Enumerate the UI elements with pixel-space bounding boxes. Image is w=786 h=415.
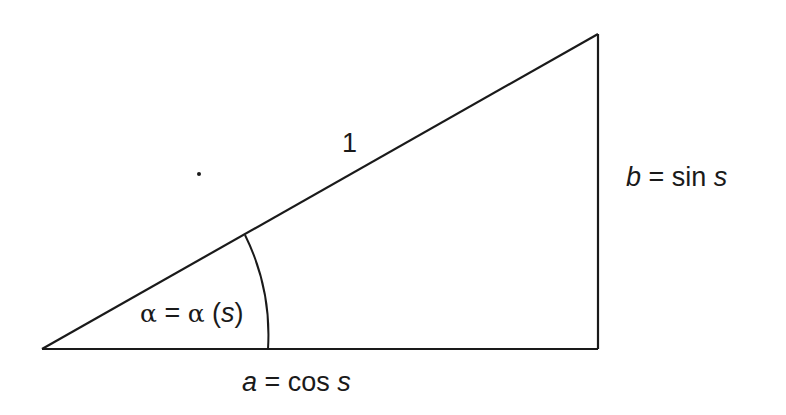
var-a: a: [242, 367, 257, 397]
vertical-side-label: b = sin s: [626, 164, 727, 191]
hypotenuse-label: 1: [342, 130, 357, 157]
triangle-figure: [0, 0, 786, 415]
sin-text: = sin: [641, 162, 714, 192]
close-paren: ): [235, 298, 244, 328]
equals-text: =: [157, 298, 188, 328]
angle-label: α = α (s): [140, 300, 244, 327]
alpha-symbol: α: [188, 299, 205, 328]
var-b: b: [626, 162, 641, 192]
alpha-symbol: α: [140, 299, 157, 328]
dot-marker: [197, 172, 201, 176]
cos-text: = cos: [257, 367, 337, 397]
open-paren: (: [205, 298, 222, 328]
arg-s: s: [714, 162, 728, 192]
arg-s: s: [221, 298, 235, 328]
angle-arc: [245, 235, 268, 349]
arg-s: s: [337, 367, 351, 397]
base-side-label: a = cos s: [242, 369, 351, 396]
hypotenuse-edge: [42, 34, 598, 349]
